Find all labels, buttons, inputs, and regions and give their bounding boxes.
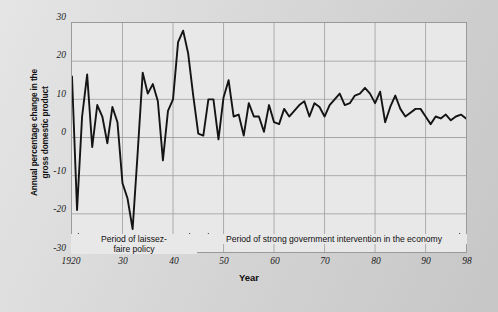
annotation-label-government-intervention: Period of strong government intervention… [201, 234, 467, 244]
y-tick-label-20: 20 [36, 50, 66, 60]
x-axis-title: Year [0, 272, 498, 283]
gdp-series-line [72, 31, 466, 229]
y-tick-label-0: 0 [36, 127, 66, 137]
y-tick-label-30: 30 [36, 12, 66, 22]
x-tick-label-30: 30 [107, 256, 139, 266]
chart-canvas [72, 23, 466, 252]
y-tick-label-neg20: -20 [36, 204, 66, 214]
y-tick-label-neg30: -30 [36, 243, 66, 253]
y-tick-label-neg10: -10 [36, 166, 66, 176]
x-tick-label-1920: 1920 [55, 256, 87, 266]
x-tick-label-80: 80 [360, 256, 392, 266]
y-tick-label-10: 10 [36, 89, 66, 99]
annotation-label-laissez-faire-line-2: faire policy [71, 244, 197, 254]
x-tick-label-40: 40 [158, 256, 190, 266]
x-tick-label-50: 50 [208, 256, 240, 266]
x-tick-label-90: 90 [410, 256, 442, 266]
gdp-chart-figure: Annual percentage change in the gross do… [0, 0, 498, 312]
annotation-label-laissez-faire: Period of laissez- faire policy [71, 234, 197, 254]
x-tick-label-60: 60 [259, 256, 291, 266]
annotation-label-government-intervention-line-1: Period of strong government intervention… [201, 234, 467, 244]
x-tick-label-98: 98 [452, 256, 482, 266]
x-tick-label-70: 70 [309, 256, 341, 266]
annotation-label-laissez-faire-line-1: Period of laissez- [71, 234, 197, 244]
plot-area [71, 22, 467, 253]
